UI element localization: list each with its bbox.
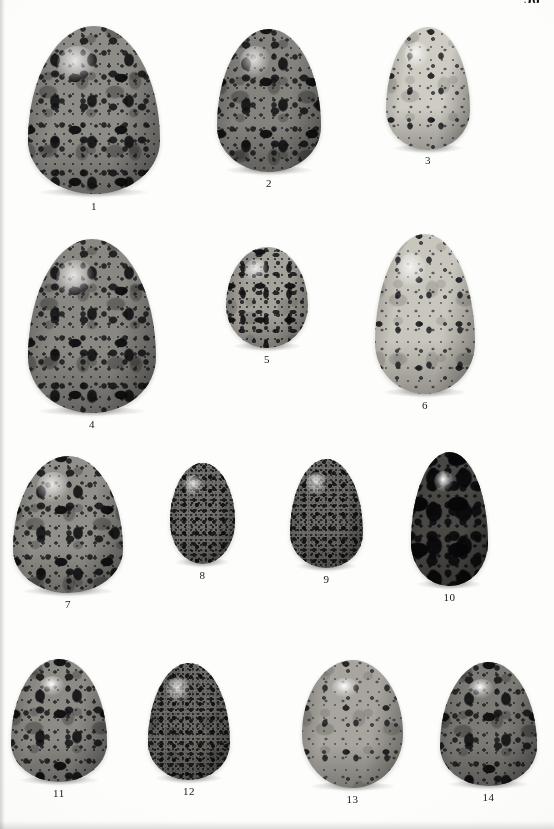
egg-figure: 8 (170, 463, 235, 583)
egg-ground-color (290, 459, 363, 568)
egg-specimen (226, 247, 308, 348)
egg-body (217, 29, 321, 172)
egg-figure: 14 (440, 662, 537, 805)
scan-edge-bottom (0, 821, 554, 829)
egg-body (386, 27, 470, 150)
egg-caption-number: 13 (302, 793, 403, 805)
egg-caption-number: 11 (11, 787, 107, 799)
egg-caption-number: 1 (28, 200, 160, 212)
egg-specimen (11, 659, 107, 782)
egg-specimen (28, 239, 156, 413)
egg-specimen (411, 452, 488, 586)
egg-specimen (28, 26, 160, 194)
egg-specimen (217, 29, 321, 172)
egg-specimen (302, 660, 403, 788)
egg-ground-color (13, 456, 123, 593)
egg-body (28, 26, 160, 194)
egg-caption-number: 3 (386, 154, 470, 166)
egg-figure: 9 (290, 459, 363, 587)
egg-caption-number: 2 (217, 177, 321, 189)
egg-body (411, 452, 488, 586)
egg-ground-color (302, 660, 403, 788)
egg-ground-color (28, 239, 156, 413)
egg-specimen (148, 663, 230, 780)
egg-specimen (375, 234, 475, 394)
egg-body (170, 463, 235, 564)
egg-caption-number: 12 (148, 785, 230, 797)
egg-figure: 13 (302, 660, 403, 807)
egg-ground-color (411, 452, 488, 586)
egg-ground-color (148, 663, 230, 780)
page-number: 56 (524, 0, 540, 3)
egg-figure: 4 (28, 239, 156, 432)
egg-specimen (386, 27, 470, 150)
egg-body (28, 239, 156, 413)
egg-figure: 5 (226, 247, 308, 367)
egg-body (440, 662, 537, 786)
egg-specimen (170, 463, 235, 564)
egg-ground-color (28, 26, 160, 194)
egg-body (290, 459, 363, 568)
egg-figure: 7 (13, 456, 123, 612)
egg-specimen (290, 459, 363, 568)
egg-body (302, 660, 403, 788)
egg-caption-number: 7 (13, 598, 123, 610)
egg-figure: 6 (375, 234, 475, 413)
egg-ground-color (170, 463, 235, 564)
egg-figure: 12 (148, 663, 230, 799)
egg-figure: 1 (28, 26, 160, 214)
egg-ground-color (11, 659, 107, 782)
plate-page: 56 1234567891011121314 (0, 0, 554, 829)
egg-ground-color (386, 27, 470, 150)
egg-body (11, 659, 107, 782)
egg-figure: 10 (411, 452, 488, 605)
egg-caption-number: 5 (226, 353, 308, 365)
egg-ground-color (226, 247, 308, 348)
egg-ground-color (217, 29, 321, 172)
egg-caption-number: 6 (375, 399, 475, 411)
egg-figure: 11 (11, 659, 107, 801)
egg-caption-number: 9 (290, 573, 363, 585)
egg-specimen (13, 456, 123, 593)
egg-caption-number: 8 (170, 569, 235, 581)
egg-body (13, 456, 123, 593)
egg-figure: 3 (386, 27, 470, 168)
egg-ground-color (375, 234, 475, 394)
egg-ground-color (440, 662, 537, 786)
egg-caption-number: 14 (440, 791, 537, 803)
egg-specimen (440, 662, 537, 786)
egg-body (375, 234, 475, 394)
egg-caption-number: 4 (28, 418, 156, 430)
egg-body (226, 247, 308, 348)
egg-figure: 2 (217, 29, 321, 191)
egg-body (148, 663, 230, 780)
egg-caption-number: 10 (411, 591, 488, 603)
scan-edge-left (0, 0, 5, 829)
